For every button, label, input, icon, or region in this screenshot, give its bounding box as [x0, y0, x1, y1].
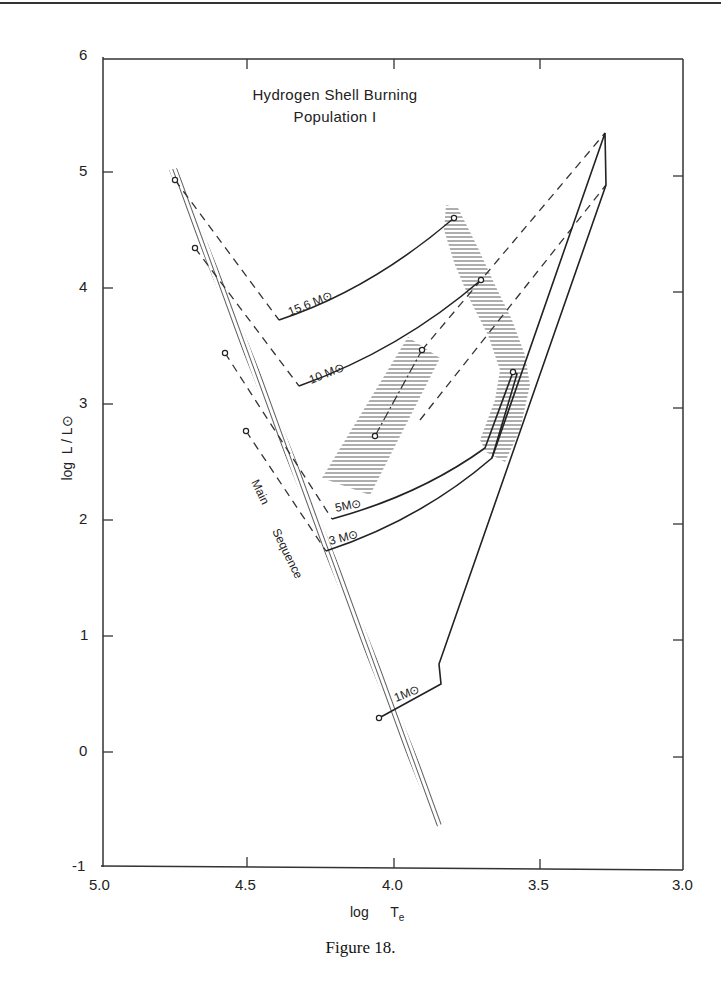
hr-diagram: 15.6 M⊙ 10 M⊙ 5M⊙ 3 M⊙ 1M⊙ Main Sequence	[0, 0, 721, 994]
x-axis-label-log: log	[350, 904, 369, 920]
instability-strip	[444, 205, 530, 462]
xtick-5-0: 5.0	[89, 876, 110, 893]
ytick-3: 3	[79, 394, 87, 411]
label-15-6: 15.6 M⊙	[286, 288, 335, 318]
y-axis-label: log L / L⊙	[59, 393, 75, 503]
ytick-0: 0	[79, 742, 87, 759]
x-axis-label-var: T	[390, 904, 399, 920]
ytick-1: 1	[80, 626, 88, 643]
ytick-4: 4	[79, 278, 87, 295]
ytick-5: 5	[79, 162, 87, 179]
solid-tracks	[279, 133, 606, 718]
y-ticks	[103, 172, 683, 757]
x-axis-label-sub: e	[399, 912, 405, 923]
figure-caption: Figure 18.	[0, 938, 721, 958]
ytick-2: 2	[79, 510, 87, 527]
x-axis-label: log Te	[350, 904, 404, 923]
xtick-3-0: 3.0	[672, 876, 693, 893]
ytick-6: 6	[79, 46, 87, 63]
label-1: 1M⊙	[392, 682, 422, 705]
ytick-neg1: -1	[72, 857, 85, 874]
chart-title: Hydrogen Shell Burning	[210, 86, 460, 103]
xtick-4-5: 4.5	[235, 876, 256, 893]
label-5: 5M⊙	[334, 496, 363, 515]
xtick-3-5: 3.5	[528, 876, 549, 893]
plot-frame	[101, 57, 683, 870]
chart-subtitle: Population I	[210, 108, 460, 125]
label-main: Main	[248, 477, 272, 507]
main-sequence-band	[169, 168, 444, 827]
xtick-4-0: 4.0	[382, 876, 403, 893]
label-sequence: Sequence	[269, 526, 305, 581]
label-10: 10 M⊙	[307, 360, 346, 387]
